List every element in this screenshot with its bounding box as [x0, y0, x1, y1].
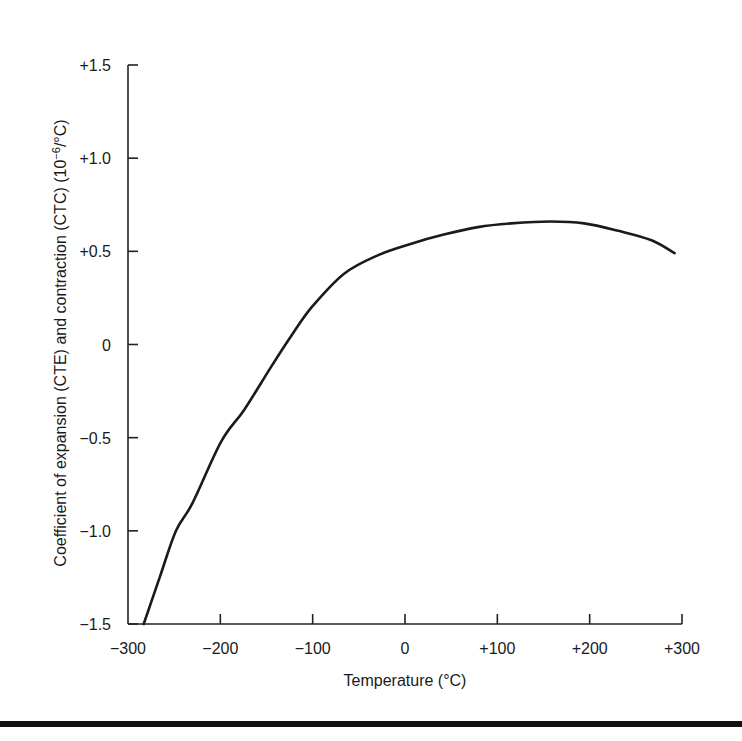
x-tick-label: +100: [479, 640, 515, 657]
x-tick-label: −300: [110, 640, 146, 657]
x-axis-title: Temperature (°C): [344, 672, 467, 689]
y-tick-label: −0.5: [79, 430, 111, 447]
y-tick-label: +0.5: [79, 243, 111, 260]
x-tick-label: +300: [664, 640, 700, 657]
axes: [128, 65, 682, 624]
bottom-rule: [0, 721, 742, 727]
x-tick-label: 0: [401, 640, 410, 657]
x-tick-label: −200: [202, 640, 238, 657]
x-ticks: −300−200−1000+100+200+300: [110, 614, 700, 657]
chart: −1.5−1.0−0.50+0.5+1.0+1.5 −300−200−1000+…: [0, 0, 742, 741]
y-tick-label: −1.0: [79, 523, 111, 540]
x-tick-label: −100: [295, 640, 331, 657]
y-tick-label: −1.5: [79, 616, 111, 633]
y-tick-label: +1.5: [79, 57, 111, 74]
y-ticks: −1.5−1.0−0.50+0.5+1.0+1.5: [79, 57, 138, 633]
cte-curve: [144, 222, 675, 625]
y-tick-label: +1.0: [79, 150, 111, 167]
y-axis-title: Coefficient of expansion (CTE) and contr…: [50, 119, 69, 566]
y-tick-label: 0: [102, 337, 111, 354]
x-tick-label: +200: [572, 640, 608, 657]
